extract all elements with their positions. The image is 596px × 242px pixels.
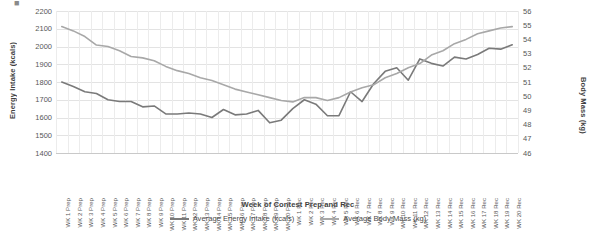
y-axis-left-ticks: 220021002000190018001700160015001400 [18, 0, 52, 170]
legend-label: Average Energy Intake (kcals) [193, 214, 295, 223]
x-axis-label: WK 4 Prep [99, 198, 106, 227]
legend-item-body-mass[interactable]: Average Body Mass (kg) [320, 214, 426, 223]
y-right-tick-55: 55 [523, 21, 531, 30]
x-axis-label: WK 9 Prep [157, 198, 164, 227]
y-left-tick-2100: 2100 [35, 24, 52, 33]
y-right-tick-51: 51 [523, 78, 531, 87]
x-axis-label: WK 5 Prep [111, 198, 118, 227]
legend-swatch-icon [320, 218, 339, 220]
x-axis-label: WK 7 Prep [134, 198, 141, 227]
x-axis-label: WK 8 Prep [145, 198, 152, 227]
y-right-tick-52: 52 [523, 63, 531, 72]
y-left-tick-2200: 2200 [35, 7, 52, 16]
chart-legend: Average Energy Intake (kcals)Average Bod… [0, 214, 596, 223]
x-axis-label: WK 3 Prep [87, 198, 94, 227]
x-axis-label: WK 1 Prep [64, 198, 71, 227]
y-left-tick-1700: 1700 [35, 95, 52, 104]
y-left-tick-1600: 1600 [35, 113, 52, 122]
x-axis-label: WK 2 Prep [76, 198, 83, 227]
y-axis-left-title: Energy Intake (kcals) [5, 20, 19, 140]
y-left-tick-1800: 1800 [35, 78, 52, 87]
y-axis-right-ticks: 5655545352515049484746 [523, 0, 553, 170]
chart-container: ■ Energy Intake (kcals) Body Mass (kg) W… [0, 0, 596, 242]
legend-label: Average Body Mass (kg) [343, 214, 426, 223]
y-left-tick-1400: 1400 [35, 149, 52, 158]
gridline-vertical [518, 11, 519, 153]
x-axis-line [56, 153, 518, 154]
x-axis-tick-labels: WK 1 PrepWK 2 PrepWK 3 PrepWK 4 PrepWK 5… [56, 156, 518, 200]
y-right-tick-47: 47 [523, 134, 531, 143]
y-axis-right-title: Body Mass (kg) [576, 50, 590, 160]
legend-swatch-icon [170, 218, 189, 220]
y-right-tick-54: 54 [523, 35, 531, 44]
plot-area [56, 11, 518, 153]
y-left-tick-2000: 2000 [35, 42, 52, 51]
series-lines [56, 11, 518, 153]
y-right-tick-49: 49 [523, 106, 531, 115]
y-right-tick-46: 46 [523, 149, 531, 158]
y-right-tick-53: 53 [523, 49, 531, 58]
x-axis-label: WK 6 Prep [122, 198, 129, 227]
legend-item-energy-intake[interactable]: Average Energy Intake (kcals) [170, 214, 295, 223]
y-right-tick-48: 48 [523, 120, 531, 129]
y-left-tick-1500: 1500 [35, 131, 52, 140]
y-right-tick-50: 50 [523, 92, 531, 101]
y-right-tick-56: 56 [523, 7, 531, 16]
y-left-tick-1900: 1900 [35, 60, 52, 69]
